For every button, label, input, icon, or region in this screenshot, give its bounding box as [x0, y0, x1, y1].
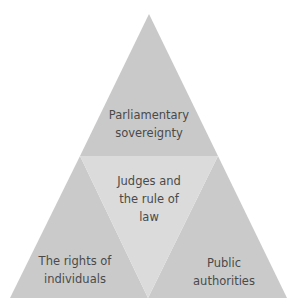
- label-judges-rule-of-law: Judges and the rule of law: [117, 172, 181, 226]
- label-parliamentary-sovereignty: Parliamentary sovereignty: [109, 106, 189, 142]
- triangle-diagram: Parliamentary sovereignty Judges and the…: [0, 0, 293, 308]
- label-rights-of-individuals: The rights of individuals: [39, 252, 112, 288]
- label-public-authorities: Public authorities: [193, 254, 255, 290]
